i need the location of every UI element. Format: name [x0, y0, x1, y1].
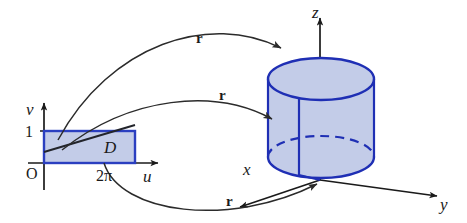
v-axis-label: v [26, 101, 34, 118]
y-axis-label: y [440, 196, 448, 213]
origin-label: O [26, 166, 38, 182]
parametric-surface-figure: v u 1 2π O D z y x r r r [0, 0, 467, 223]
v-axis-tick-label: 1 [25, 124, 33, 140]
x-axis-line [240, 180, 320, 207]
x-axis-label: x [243, 161, 251, 178]
mapping-arrow-top [58, 34, 281, 140]
u-axis-tick-label: 2π [96, 168, 112, 184]
u-axis-label: u [143, 168, 152, 185]
z-axis-label: z [312, 4, 319, 21]
domain-region-label: D [104, 139, 116, 156]
figure-canvas [0, 0, 467, 223]
mapping-label-top: r [196, 31, 203, 46]
y-axis-line [320, 180, 437, 196]
mapping-label-bottom: r [226, 194, 233, 209]
cylinder-group [268, 58, 374, 180]
mapping-label-middle: r [219, 88, 226, 103]
